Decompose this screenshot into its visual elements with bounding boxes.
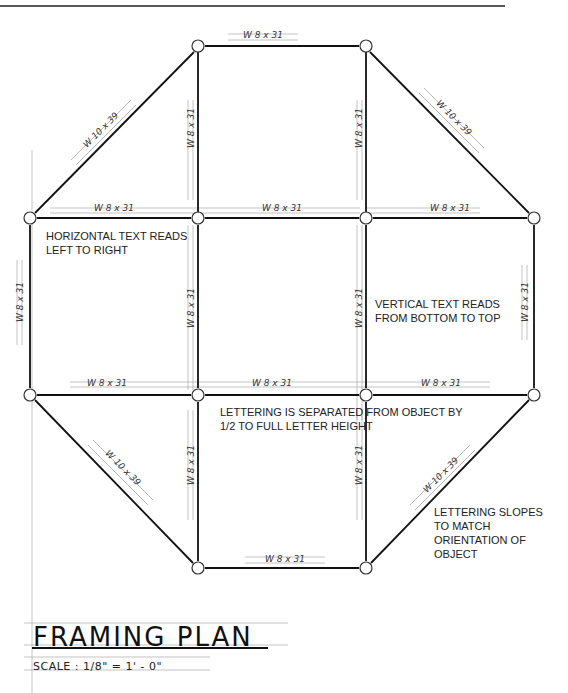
member-label: W 8 x 31: [421, 378, 461, 388]
note-line: LEFT TO RIGHT: [46, 243, 187, 257]
member-label: W 8 x 31: [15, 282, 25, 322]
member-label: W 8 x 31: [520, 282, 530, 322]
note-line: HORIZONTAL TEXT READS: [46, 229, 187, 243]
member-label: W 8 x 31: [354, 288, 364, 328]
node[interactable]: [360, 40, 372, 52]
note-line: ORIENTATION OF: [434, 533, 543, 547]
node[interactable]: [24, 389, 36, 401]
member-label: W 8 x 31: [186, 108, 196, 148]
node[interactable]: [192, 212, 204, 224]
drawing-scale: SCALE : 1/8" = 1' - 0": [33, 660, 162, 673]
member-label: W 8 x 31: [262, 203, 302, 213]
note-horizontal-text: HORIZONTAL TEXT READS LEFT TO RIGHT: [46, 229, 187, 257]
note-line: VERTICAL TEXT READS: [375, 297, 501, 311]
note-line: 1/2 TO FULL LETTER HEIGHT: [220, 419, 463, 433]
member-label: W 8 x 31: [87, 378, 127, 388]
node[interactable]: [192, 562, 204, 574]
note-vertical-text: VERTICAL TEXT READS FROM BOTTOM TO TOP: [375, 297, 501, 325]
note-line: OBJECT: [434, 547, 543, 561]
node[interactable]: [192, 389, 204, 401]
node[interactable]: [192, 40, 204, 52]
note-line: FROM BOTTOM TO TOP: [375, 311, 501, 325]
note-line: TO MATCH: [434, 519, 543, 533]
note-slope: LETTERING SLOPES TO MATCH ORIENTATION OF…: [434, 505, 543, 561]
node[interactable]: [24, 212, 36, 224]
member-label: W 8 x 31: [243, 30, 283, 40]
member-label: W 8 x 31: [430, 203, 470, 213]
member-label: W 8 x 31: [265, 554, 305, 564]
member-label: W 10 x 39: [81, 110, 121, 150]
note-line: LETTERING SLOPES: [434, 505, 543, 519]
node[interactable]: [528, 212, 540, 224]
member-label: W 8 x 31: [186, 445, 196, 485]
member-label: W 8 x 31: [252, 378, 292, 388]
node[interactable]: [528, 389, 540, 401]
member-label: W 10 x 39: [434, 98, 474, 138]
node[interactable]: [360, 389, 372, 401]
member-label: W 8 x 31: [186, 288, 196, 328]
member-label: W 8 x 31: [354, 445, 364, 485]
node[interactable]: [360, 212, 372, 224]
node[interactable]: [360, 562, 372, 574]
framing-plan-drawing: W 8 x 31 W 10 x 39 W 10 x 39 W 8 x 31 W …: [0, 0, 568, 693]
note-line: LETTERING IS SEPARATED FROM OBJECT BY: [220, 405, 463, 419]
member-label: W 8 x 31: [94, 203, 134, 213]
member-label: W 10 x 39: [103, 448, 143, 488]
member-label: W 10 x 39: [421, 455, 461, 495]
member-label: W 8 x 31: [354, 108, 364, 148]
note-separation: LETTERING IS SEPARATED FROM OBJECT BY 1/…: [220, 405, 463, 433]
drawing-title: FRAMING PLAN: [33, 622, 253, 652]
